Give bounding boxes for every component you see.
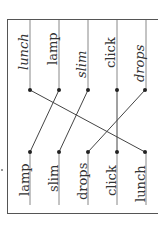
- bottom-word: slim: [47, 165, 61, 192]
- bottom-word: click: [105, 165, 119, 196]
- bottom-word: drops: [76, 163, 90, 200]
- top-word: click: [104, 37, 118, 68]
- bottom-word: lunch: [134, 165, 148, 202]
- top-word: drops: [133, 45, 147, 82]
- top-word: lunch: [17, 33, 31, 70]
- top-word: lamp: [46, 32, 60, 65]
- match-line-slim: [59, 90, 88, 152]
- match-line-lunch: [30, 90, 145, 152]
- bottom-word: lamp: [18, 163, 32, 196]
- match-line-lamp: [30, 90, 59, 152]
- top-word: slim: [75, 51, 89, 78]
